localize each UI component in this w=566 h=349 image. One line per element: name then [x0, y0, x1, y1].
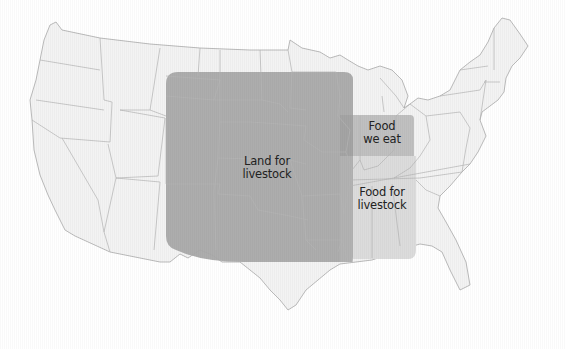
- label-food-we-eat: Food we eat: [350, 120, 414, 146]
- label-line: livestock: [346, 199, 418, 212]
- label-line: livestock: [232, 168, 302, 181]
- label-food-for-livestock: Food for livestock: [346, 186, 418, 212]
- label-land-for-livestock: Land for livestock: [232, 155, 302, 181]
- label-line: we eat: [350, 133, 414, 146]
